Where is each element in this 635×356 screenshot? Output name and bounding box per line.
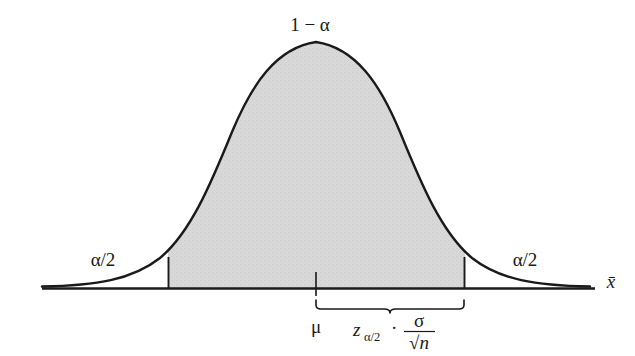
confidence-level-label: 1 − α [290,14,330,35]
margin-multiplication-dot: · [391,317,397,338]
mean-label: μ [311,316,321,337]
margin-z-symbol: z [352,319,361,340]
margin-z-subscript: α/2 [364,330,380,344]
margin-denominator-sqrt-n: √n [409,332,429,353]
margin-of-error-expression: z α/2 · σ √n [352,310,435,353]
figure-canvas: 1 − α α/2 α/2 μ x̄ z α/2 · σ √n [0,0,635,356]
normal-curve-figure: 1 − α α/2 α/2 μ x̄ z α/2 · σ √n [0,0,635,356]
shaded-confidence-region [42,42,590,288]
right-tail-label: α/2 [513,249,538,270]
margin-numerator-sigma: σ [414,310,424,331]
left-tail-label: α/2 [91,249,116,270]
axis-variable-label: x̄ [606,271,616,292]
margin-of-error-brace [316,300,464,313]
